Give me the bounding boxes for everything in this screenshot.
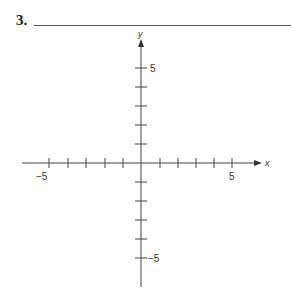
y-axis-arrow-icon <box>138 39 144 47</box>
coordinate-plane: y x 5 −5 −5 5 <box>0 0 291 302</box>
y-tick-label-neg5: −5 <box>148 253 160 264</box>
x-tick-label-neg5: −5 <box>36 171 48 182</box>
x-axis-label: x <box>264 158 270 168</box>
x-axis-arrow-icon <box>254 160 262 166</box>
y-tick-label-5: 5 <box>150 63 156 74</box>
x-tick-label-5: 5 <box>229 171 235 182</box>
y-axis-label: y <box>137 29 143 39</box>
